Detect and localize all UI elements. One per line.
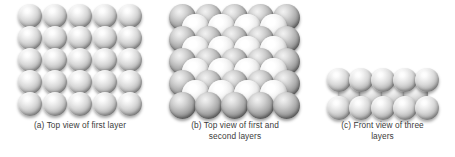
sphere-layer1-r3-c1 xyxy=(43,70,67,94)
sphere-layer1-r1-c4 xyxy=(118,26,142,50)
sphere-layer1-r3-c2 xyxy=(68,70,92,94)
panel-c-caption: (c) Front view of three layers xyxy=(310,120,455,142)
sphere-bottom-layer-2 xyxy=(371,96,395,120)
sphere-layer1-r0-c1 xyxy=(43,4,67,28)
sphere-top-layer-2 xyxy=(371,68,395,92)
panel-b-caption: (b) Top view of first and second layers xyxy=(160,120,310,142)
sphere-layer1-r0-c3 xyxy=(93,4,117,28)
sphere-top-layer-3 xyxy=(393,68,417,92)
sphere-layer1-r0-c0 xyxy=(18,4,42,28)
sphere-layer1-r4-c1 xyxy=(195,92,222,119)
sphere-layer1-r4-c3 xyxy=(93,92,117,116)
sphere-layer1-r4-c2 xyxy=(221,92,248,119)
sphere-top-layer-4 xyxy=(415,68,439,92)
panel-b-sphere-array xyxy=(169,4,301,117)
sphere-layer1-r4-c0 xyxy=(169,92,196,119)
sphere-layer1-r3-c0 xyxy=(18,70,42,94)
panel-a-sphere-array xyxy=(18,4,142,117)
sphere-layer1-r3-c3 xyxy=(93,70,117,94)
sphere-layer1-r2-c0 xyxy=(18,48,42,72)
panel-c-front-view-three-layers: (c) Front view of three layers xyxy=(310,0,455,117)
sphere-layer1-r1-c1 xyxy=(43,26,67,50)
panel-c-sphere-array xyxy=(327,4,439,117)
sphere-layer1-r0-c2 xyxy=(68,4,92,28)
sphere-layer1-r4-c1 xyxy=(43,92,67,116)
sphere-layer1-r2-c1 xyxy=(43,48,67,72)
panel-a-top-view-first-layer: (a) Top view of first layer xyxy=(0,0,160,117)
sphere-top-layer-0 xyxy=(327,68,351,92)
sphere-layer1-r4-c2 xyxy=(68,92,92,116)
sphere-layer1-r1-c2 xyxy=(68,26,92,50)
sphere-layer1-r0-c4 xyxy=(118,4,142,28)
sphere-top-layer-1 xyxy=(349,68,373,92)
packing-diagram-figure: (a) Top view of first layer (b) Top view… xyxy=(0,0,455,157)
sphere-layer1-r3-c4 xyxy=(118,70,142,94)
panel-b-top-view-first-and-second-layers: (b) Top view of first and second layers xyxy=(160,0,310,117)
sphere-layer1-r2-c2 xyxy=(68,48,92,72)
sphere-bottom-layer-1 xyxy=(349,96,373,120)
sphere-layer1-r2-c4 xyxy=(118,48,142,72)
panel-a-caption: (a) Top view of first layer xyxy=(0,120,160,131)
sphere-layer1-r4-c4 xyxy=(118,92,142,116)
sphere-layer1-r2-c3 xyxy=(93,48,117,72)
sphere-layer1-r1-c0 xyxy=(18,26,42,50)
sphere-layer1-r4-c4 xyxy=(273,92,300,119)
sphere-bottom-layer-0 xyxy=(327,96,351,120)
sphere-bottom-layer-4 xyxy=(415,96,439,120)
sphere-layer1-r4-c0 xyxy=(18,92,42,116)
sphere-bottom-layer-3 xyxy=(393,96,417,120)
sphere-layer1-r4-c3 xyxy=(247,92,274,119)
sphere-layer1-r1-c3 xyxy=(93,26,117,50)
